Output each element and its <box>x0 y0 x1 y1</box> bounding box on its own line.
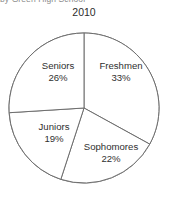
slice-percent-seniors: 26% <box>30 72 86 84</box>
slice-name-sophomores: Sophomores <box>77 141 145 153</box>
slice-name-seniors: Seniors <box>30 60 86 72</box>
slice-label-juniors: Juniors 19% <box>28 121 80 144</box>
pie-chart-svg <box>0 0 173 203</box>
slice-percent-juniors: 19% <box>28 133 80 145</box>
slice-label-freshmen: Freshmen 33% <box>93 60 149 83</box>
slice-label-seniors: Seniors 26% <box>30 60 86 83</box>
pie-chart-screenshot: by Green High School 2010 Freshmen 33% S… <box>0 0 173 203</box>
slice-name-freshmen: Freshmen <box>93 60 149 72</box>
slice-label-sophomores: Sophomores 22% <box>77 141 145 164</box>
slice-name-juniors: Juniors <box>28 121 80 133</box>
pie-chart <box>0 0 173 203</box>
slice-percent-freshmen: 33% <box>93 72 149 84</box>
slice-percent-sophomores: 22% <box>77 153 145 165</box>
